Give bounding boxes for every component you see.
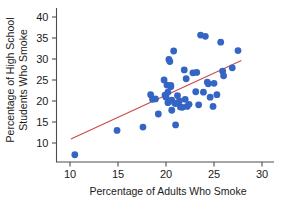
data-point <box>213 91 220 98</box>
plot-canvas: 1015202530 10152025303540 Percentage of … <box>0 0 287 211</box>
data-point <box>211 80 218 87</box>
data-point <box>152 96 159 103</box>
data-point <box>167 83 174 90</box>
data-point <box>168 107 175 114</box>
y-tick-label: 25 <box>36 74 48 86</box>
y-axis-title-line-2: Students Who Smoke <box>17 29 29 131</box>
y-tick-label: 10 <box>36 137 48 149</box>
data-point <box>192 88 199 95</box>
data-point <box>71 151 78 158</box>
x-tick-label: 10 <box>64 168 76 180</box>
data-point <box>210 103 217 110</box>
data-point <box>166 58 173 65</box>
y-axis-title-line-1: Percentage of High School <box>4 18 16 143</box>
data-point <box>183 75 190 82</box>
data-point <box>217 39 224 46</box>
data-point <box>155 111 162 118</box>
data-point <box>186 101 193 108</box>
data-point <box>235 47 242 54</box>
y-tick-label: 40 <box>36 11 48 23</box>
y-tick-label: 35 <box>36 32 48 44</box>
data-point <box>229 64 236 71</box>
data-point <box>114 127 121 134</box>
x-axis-title: Percentage of Adults Who Smoke <box>89 185 246 197</box>
data-point <box>200 89 207 96</box>
data-point <box>220 72 227 79</box>
x-tick-label: 15 <box>112 168 124 180</box>
data-point <box>207 94 214 101</box>
data-point <box>140 124 147 131</box>
y-tick-label: 30 <box>36 53 48 65</box>
data-point <box>193 69 200 76</box>
data-point <box>170 48 177 55</box>
y-tick-label: 15 <box>36 116 48 128</box>
data-point <box>195 101 202 108</box>
data-point <box>202 33 209 40</box>
data-point <box>181 67 188 74</box>
x-tick-label: 25 <box>208 168 220 180</box>
data-point <box>176 98 183 105</box>
y-tick-label: 20 <box>36 95 48 107</box>
data-point <box>205 80 212 87</box>
x-tick-label: 30 <box>256 168 268 180</box>
scatter-plot-figure: 1015202530 10152025303540 Percentage of … <box>0 0 287 211</box>
x-tick-label: 20 <box>160 168 172 180</box>
data-point <box>172 122 179 129</box>
